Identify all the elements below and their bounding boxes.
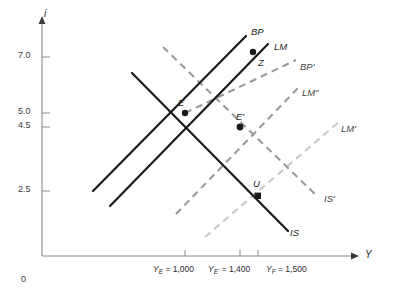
curve-label-lm-double-prime: LM″ [302, 88, 319, 98]
y-tick-label-2-5: 2.5 [18, 185, 31, 194]
y-tick-label-4-5: 4.5 [18, 121, 31, 130]
curve-label-is: IS [290, 228, 299, 238]
y-axis-title: i [44, 9, 46, 19]
x-tick-label-yf-value: = 1,500 [278, 264, 307, 274]
x-tick-label-yf-subscript: F [272, 268, 276, 275]
y-tick-label-7-0: 7.0 [18, 51, 31, 60]
y-tick-label-5-0: 5.0 [18, 107, 31, 116]
x-tick-label-ye-prime-symbol: Y [208, 264, 214, 274]
x-tick-label-ye-prime-subscript: E' [214, 268, 220, 275]
x-tick-marks [185, 250, 258, 256]
x-tick-label-yf: YF = 1,500 [266, 265, 307, 274]
curve-bp-prime [185, 60, 296, 113]
point-label-u: U [253, 179, 260, 189]
is-lm-bp-chart: i Y 0 7.0 5.0 4.5 2.5 YE = 1,000 YE' = 1… [0, 0, 393, 296]
point-label-z: Z [258, 58, 264, 68]
x-tick-label-ye-prime-value: = 1,400 [222, 264, 251, 274]
point-label-e-prime: E' [236, 112, 244, 122]
curve-label-lm: LM [274, 42, 287, 52]
curve-is [132, 73, 288, 231]
curve-label-is-prime: IS' [324, 194, 335, 204]
point-marker-e [182, 110, 188, 116]
x-tick-label-yf-symbol: Y [266, 264, 272, 274]
x-tick-label-ye: YE = 1,000 [153, 265, 194, 274]
origin-label: 0 [21, 275, 26, 284]
x-tick-label-ye-symbol: Y [153, 264, 159, 274]
point-marker-u [255, 193, 261, 199]
curve-bp [93, 36, 246, 191]
y-tick-marks [42, 57, 50, 191]
curve-is-prime [163, 47, 318, 197]
point-marker-e-prime [237, 124, 244, 131]
point-marker-z [250, 49, 256, 55]
point-label-e: E [178, 98, 184, 108]
curve-label-bp-prime: BP' [300, 62, 315, 72]
x-axis-arrowhead [351, 253, 359, 260]
x-axis-title: Y [365, 250, 372, 260]
chart-canvas [0, 0, 393, 296]
x-tick-label-ye-value: = 1,000 [165, 264, 194, 274]
curve-label-lm-prime: LM' [341, 124, 356, 134]
curve-label-bp: BP [251, 27, 264, 37]
curve-lm-prime [205, 121, 340, 237]
x-tick-label-ye-subscript: E [159, 268, 163, 275]
curve-lm-double-prime [176, 86, 300, 214]
x-tick-label-ye-prime: YE' = 1,400 [208, 265, 250, 274]
